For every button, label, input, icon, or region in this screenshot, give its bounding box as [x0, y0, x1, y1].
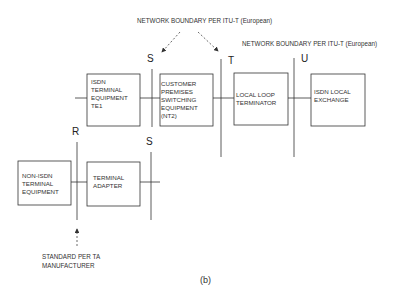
isdn-local-exchange-box: ISDN LOCAL EXCHANGE	[314, 88, 351, 104]
te1-box: ISDN TERMINAL EQUIPMENT TE1	[91, 78, 128, 110]
right-network-boundary-label: NETWORK BOUNDARY PER ITU-T (European)	[242, 40, 377, 47]
standard-note-line1: STANDARD PER TA	[42, 253, 100, 260]
figure-caption: (b)	[200, 275, 211, 285]
ref-point-r: R	[72, 126, 79, 137]
ref-point-t: T	[228, 55, 234, 66]
ref-point-s-bottom: S	[146, 136, 153, 147]
ref-point-s-top: S	[147, 53, 154, 64]
standard-note-line2: MANUFACTURER	[42, 262, 94, 269]
nt2-box: CUSTOMER PREMISES SWITCHING EQUIPMENT (N…	[161, 80, 198, 120]
top-network-boundary-label: NETWORK BOUNDARY PER ITU-T (European)	[137, 17, 272, 24]
terminal-adapter-box: TERMINAL ADAPTER	[93, 174, 124, 190]
ref-point-u: U	[301, 53, 308, 64]
local-loop-terminator-box: LOCAL LOOP TERMINATOR	[236, 91, 276, 107]
non-isdn-terminal-equipment-box: NON-ISDN TERMINAL EQUIPMENT	[22, 172, 59, 196]
